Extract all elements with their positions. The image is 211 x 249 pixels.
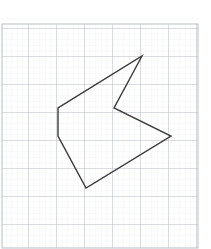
grid-layer	[2, 19, 198, 248]
grid-fill	[2, 24, 198, 248]
graph-paper-canvas	[0, 0, 211, 249]
figure-svg	[0, 0, 211, 249]
